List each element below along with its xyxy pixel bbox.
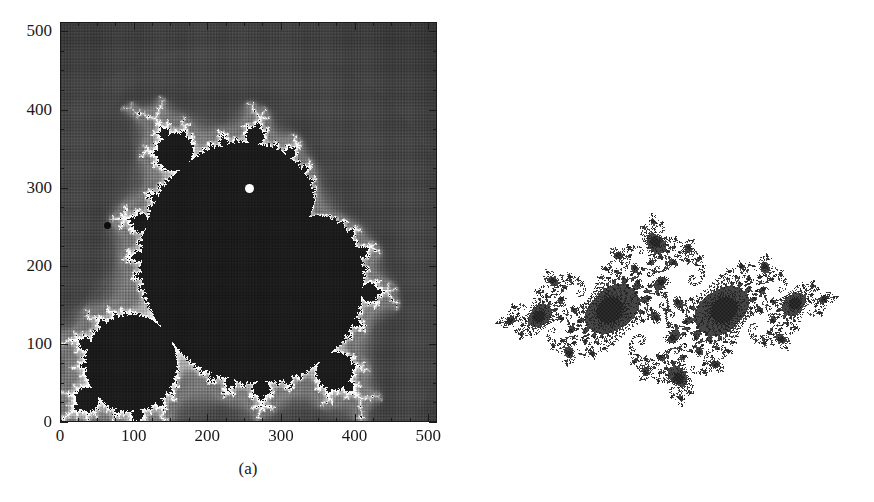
x-minor-tick-top: [170, 22, 171, 26]
panel-a: 0100200300400500 0100200300400500 (a): [0, 0, 460, 502]
y-tick-label: 100: [0, 334, 52, 353]
y-minor-tick-right: [433, 149, 437, 150]
y-minor-tick-right: [433, 129, 437, 130]
x-minor-tick-top: [244, 22, 245, 26]
y-minor-tick-right: [433, 51, 437, 52]
y-minor-tick-right: [433, 285, 437, 286]
y-minor-tick-right: [433, 363, 437, 364]
x-major-tick-top: [281, 22, 282, 30]
x-minor-tick: [262, 418, 263, 422]
y-minor-tick-right: [433, 324, 437, 325]
x-minor-tick-top: [391, 22, 392, 26]
y-minor-tick-right: [433, 207, 437, 208]
y-minor-tick-right: [433, 90, 437, 91]
y-tick-label: 0: [0, 412, 52, 431]
y-minor-tick: [60, 383, 64, 384]
x-minor-tick-top: [262, 22, 263, 26]
x-major-tick: [134, 414, 135, 422]
y-minor-tick-right: [433, 246, 437, 247]
x-major-tick-top: [355, 22, 356, 30]
y-tick-label: 200: [0, 256, 52, 275]
x-minor-tick: [410, 418, 411, 422]
y-tick-label: 300: [0, 178, 52, 197]
x-major-tick: [207, 414, 208, 422]
x-minor-tick-top: [115, 22, 116, 26]
x-major-tick: [60, 414, 61, 422]
y-minor-tick-right: [433, 305, 437, 306]
x-major-tick: [281, 414, 282, 422]
x-minor-tick: [318, 418, 319, 422]
x-major-tick-top: [428, 22, 429, 30]
panel-b: (b): [460, 0, 874, 502]
julia-set-image: [465, 190, 869, 430]
y-major-tick-right: [429, 110, 437, 111]
julia-plot-area: [465, 190, 869, 430]
y-major-tick-right: [429, 31, 437, 32]
x-major-tick-top: [134, 22, 135, 30]
y-minor-tick: [60, 149, 64, 150]
y-major-tick: [60, 344, 68, 345]
y-minor-tick-right: [433, 227, 437, 228]
y-minor-tick: [60, 51, 64, 52]
x-tick-label: 400: [325, 426, 385, 445]
x-minor-tick-top: [226, 22, 227, 26]
y-minor-tick: [60, 246, 64, 247]
y-tick-label: 400: [0, 100, 52, 119]
x-minor-tick-top: [78, 22, 79, 26]
x-minor-tick: [115, 418, 116, 422]
x-minor-tick: [97, 418, 98, 422]
y-tick-label: 500: [0, 21, 52, 40]
y-minor-tick: [60, 70, 64, 71]
y-minor-tick: [60, 402, 64, 403]
panel-a-caption: (a): [188, 459, 308, 479]
x-minor-tick: [373, 418, 374, 422]
y-major-tick-right: [429, 266, 437, 267]
y-major-tick: [60, 31, 68, 32]
x-major-tick: [428, 414, 429, 422]
x-tick-label: 100: [104, 426, 164, 445]
x-minor-tick-top: [97, 22, 98, 26]
x-major-tick: [355, 414, 356, 422]
x-tick-label: 200: [177, 426, 237, 445]
x-minor-tick-top: [299, 22, 300, 26]
mandelbrot-image: [61, 23, 436, 421]
y-major-tick: [60, 188, 68, 189]
y-minor-tick: [60, 129, 64, 130]
x-minor-tick: [226, 418, 227, 422]
x-tick-label: 500: [398, 426, 458, 445]
y-major-tick: [60, 422, 68, 423]
y-minor-tick: [60, 324, 64, 325]
y-major-tick-right: [429, 422, 437, 423]
x-minor-tick: [78, 418, 79, 422]
x-minor-tick-top: [318, 22, 319, 26]
y-major-tick-right: [429, 344, 437, 345]
y-minor-tick-right: [433, 168, 437, 169]
x-minor-tick: [336, 418, 337, 422]
y-minor-tick: [60, 285, 64, 286]
y-minor-tick: [60, 207, 64, 208]
x-minor-tick-top: [152, 22, 153, 26]
x-minor-tick: [170, 418, 171, 422]
y-major-tick: [60, 266, 68, 267]
x-minor-tick-top: [336, 22, 337, 26]
x-minor-tick-top: [373, 22, 374, 26]
y-minor-tick: [60, 227, 64, 228]
x-minor-tick-top: [410, 22, 411, 26]
x-major-tick-top: [60, 22, 61, 30]
y-major-tick: [60, 110, 68, 111]
x-minor-tick: [189, 418, 190, 422]
x-minor-tick: [391, 418, 392, 422]
y-minor-tick: [60, 90, 64, 91]
x-major-tick-top: [207, 22, 208, 30]
figure-panel-group: 0100200300400500 0100200300400500 (a) (b…: [0, 0, 874, 502]
y-minor-tick: [60, 305, 64, 306]
y-minor-tick-right: [433, 383, 437, 384]
mandelbrot-plot-frame: [60, 22, 437, 422]
y-minor-tick-right: [433, 70, 437, 71]
x-minor-tick-top: [189, 22, 190, 26]
x-tick-label: 300: [251, 426, 311, 445]
y-minor-tick: [60, 168, 64, 169]
x-minor-tick: [299, 418, 300, 422]
y-minor-tick: [60, 363, 64, 364]
y-minor-tick-right: [433, 402, 437, 403]
